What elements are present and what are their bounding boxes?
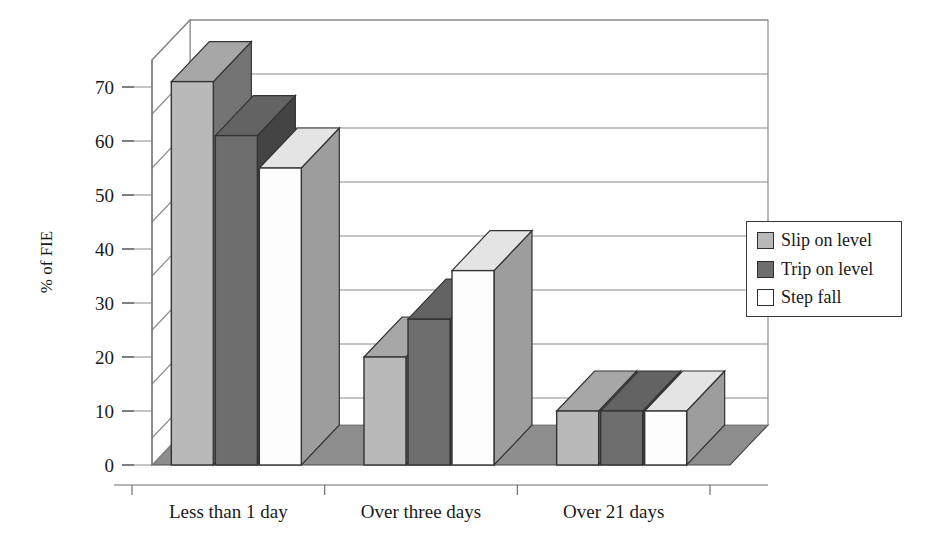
legend-item: Slip on level — [757, 226, 901, 255]
y-tick-label: 50 — [95, 185, 114, 206]
legend-label: Trip on level — [781, 259, 873, 280]
bar-side — [301, 128, 339, 465]
legend-swatch-icon — [757, 232, 774, 249]
legend-swatch-icon — [757, 261, 774, 278]
plot-area — [152, 20, 768, 465]
bar-front — [557, 411, 599, 465]
bar-0-2 — [259, 128, 339, 465]
x-tick-label: Over 21 days — [563, 501, 664, 522]
bar-front — [171, 82, 213, 465]
bar-front — [259, 168, 301, 465]
bar-front — [408, 319, 450, 465]
bar-front — [452, 271, 494, 465]
bar-front — [364, 357, 406, 465]
bar-front — [645, 411, 687, 465]
legend-label: Slip on level — [781, 230, 872, 251]
y-tick-label: 0 — [105, 455, 115, 476]
bar-front — [601, 411, 643, 465]
legend-label: Step fall — [781, 287, 842, 308]
bar-1-2 — [452, 231, 532, 465]
chart-figure: 010203040506070% of FIELess than 1 dayOv… — [0, 0, 950, 539]
legend-item: Trip on level — [757, 255, 901, 284]
bar-front — [215, 136, 257, 465]
bar-side — [494, 231, 532, 465]
y-tick-label: 60 — [95, 131, 114, 152]
legend-item: Step fall — [757, 283, 901, 312]
y-tick-label: 20 — [95, 347, 114, 368]
y-tick-label: 40 — [95, 239, 114, 260]
y-tick-label: 30 — [95, 293, 114, 314]
x-tick-label: Over three days — [361, 501, 481, 522]
x-tick-label: Less than 1 day — [169, 501, 288, 522]
y-axis-title: % of FIE — [37, 231, 56, 293]
y-tick-label: 70 — [95, 77, 114, 98]
legend-swatch-icon — [757, 289, 774, 306]
y-tick-label: 10 — [95, 401, 114, 422]
legend: Slip on levelTrip on levelStep fall — [746, 221, 902, 317]
